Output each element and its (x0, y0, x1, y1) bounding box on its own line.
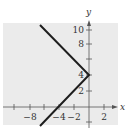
y-tick-label: 10 (73, 25, 85, 35)
y-tick-label: 4 (78, 70, 84, 80)
x-tick-label: −8 (23, 112, 37, 122)
x-tick-label: 2 (101, 112, 107, 122)
y-tick-label: 8 (78, 39, 84, 49)
y-tick-label: 2 (78, 86, 84, 96)
plot-area (3, 23, 118, 125)
y-axis-label: y (85, 7, 92, 17)
x-tick-label: −4 (52, 112, 66, 122)
x-axis-label: x (120, 102, 125, 112)
chart: −8 −4 −2 2 10 8 4 2 x y (0, 0, 127, 133)
x-tick-label: −2 (67, 112, 80, 122)
